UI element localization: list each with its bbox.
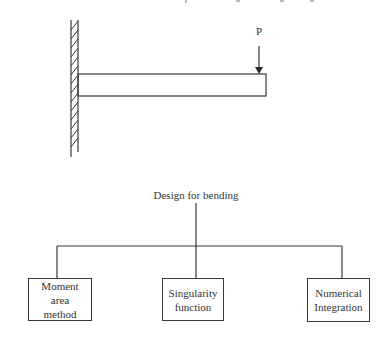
node-label: Numerical Integration [314, 286, 362, 314]
node-label: Moment area method [41, 279, 78, 321]
cantilever-beam [78, 74, 266, 96]
fixed-wall-support [71, 20, 78, 157]
node-label: Singularity function [169, 286, 218, 314]
node-numerical-integration: Numerical Integration [307, 278, 370, 322]
node-moment-area-method: Moment area method [28, 278, 92, 321]
tree-connectors [57, 203, 342, 278]
node-singularity-function: Singularity function [162, 278, 224, 321]
load-label: P [252, 25, 266, 38]
tree-root-label: Design for bending [140, 189, 252, 202]
load-arrow-icon [255, 46, 263, 74]
cropped-text-fragments [185, 0, 314, 3]
